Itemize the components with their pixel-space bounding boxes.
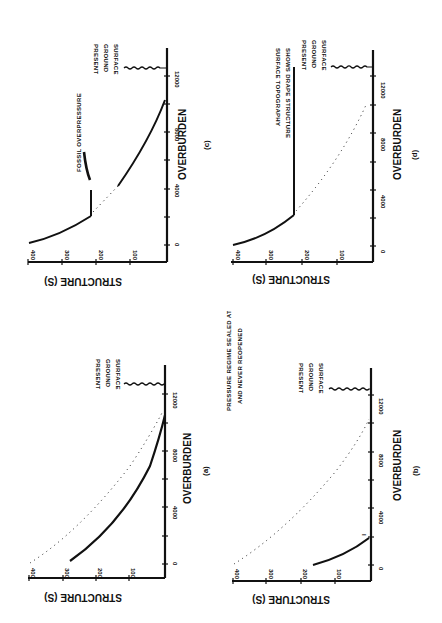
chart-c: 400 300 200 100 0 4000 8000 12000 STRUCT… bbox=[0, 0, 221, 311]
panel-d: 400 300 200 100 0 4000 8000 12000 STRUCT… bbox=[221, 0, 442, 311]
xtick-0: 0 bbox=[378, 567, 384, 571]
xtick-8000: 8000 bbox=[380, 138, 386, 152]
chart-b: 400 300 200 100 0 4000 8000 12000 STRUCT… bbox=[221, 311, 442, 622]
panel-label: (a) bbox=[201, 466, 210, 476]
ytick-100: 100 bbox=[132, 250, 138, 261]
ylabel: STRUCTURE (S) bbox=[44, 592, 122, 603]
ground-surface-line bbox=[124, 67, 167, 69]
ytick-100: 100 bbox=[339, 250, 345, 261]
dotted-reference bbox=[234, 419, 369, 564]
chart-d: 400 300 200 100 0 4000 8000 12000 STRUCT… bbox=[221, 0, 442, 311]
xlabel: OVERBURDEN bbox=[182, 433, 193, 504]
panel-b: 400 300 200 100 0 4000 8000 12000 STRUCT… bbox=[221, 311, 442, 622]
ytick-200: 200 bbox=[97, 568, 103, 579]
gs-present: PRESENT bbox=[95, 359, 101, 389]
xtick-8000: 8000 bbox=[378, 454, 384, 468]
curve-late bbox=[118, 100, 165, 186]
ytick-300: 300 bbox=[268, 250, 274, 261]
xlabel: OVERBURDEN bbox=[392, 109, 403, 180]
xtick-4000: 4000 bbox=[378, 511, 384, 525]
sealed-curve bbox=[313, 538, 369, 565]
drape-label-1: SURFACE TOPOGRAPHY bbox=[275, 48, 281, 126]
ground-surface-line bbox=[329, 388, 371, 390]
xtick-12000: 12000 bbox=[172, 392, 178, 409]
ytick-200: 200 bbox=[304, 250, 310, 261]
dotted-reference bbox=[296, 105, 366, 211]
xlabel: OVERBURDEN bbox=[392, 430, 403, 501]
chart-a: 400 300 200 100 0 4000 8000 12000 STRUCT… bbox=[0, 311, 221, 622]
xtick-12000: 12000 bbox=[174, 71, 180, 88]
ytick-300: 300 bbox=[64, 568, 70, 579]
xtick-12000: 12000 bbox=[378, 398, 384, 415]
panel-label: (d) bbox=[410, 149, 419, 160]
sealed-label-2: AND NEVER REOPENED bbox=[237, 328, 243, 404]
xtick-0: 0 bbox=[172, 562, 178, 566]
seal-marker: I bbox=[361, 534, 367, 536]
ylabel: STRUCTURE (S) bbox=[252, 274, 330, 285]
solid-curve bbox=[70, 415, 165, 561]
gs-present: PRESENT bbox=[93, 44, 99, 74]
xlabel: OVERBURDEN bbox=[177, 109, 188, 180]
panel-label: (b) bbox=[411, 465, 420, 476]
curve-early bbox=[29, 216, 91, 243]
panel-c: 400 300 200 100 0 4000 8000 12000 STRUCT… bbox=[0, 0, 221, 311]
xtick-4000: 4000 bbox=[172, 506, 178, 520]
xtick-0: 0 bbox=[380, 250, 386, 254]
fossil-overpressure-label: FOSSIL OVERPRESSURE bbox=[76, 93, 82, 172]
ytick-400: 400 bbox=[235, 250, 241, 261]
gs-ground: GROUND bbox=[105, 359, 111, 388]
ytick-400: 400 bbox=[30, 250, 36, 261]
gs-surface: SURFACE bbox=[115, 359, 121, 390]
gs-present: PRESENT bbox=[301, 40, 307, 70]
panel-a: 400 300 200 100 0 4000 8000 12000 STRUCT… bbox=[0, 311, 221, 622]
xtick-12000: 12000 bbox=[380, 82, 386, 99]
ylabel: STRUCTURE (S) bbox=[44, 276, 122, 287]
drape-label-2: SHOWS DRAPE STRUCTURE bbox=[285, 48, 291, 138]
xtick-4000: 4000 bbox=[380, 195, 386, 209]
ytick-100: 100 bbox=[130, 568, 136, 579]
xtick-8000: 8000 bbox=[172, 449, 178, 463]
ytick-200: 200 bbox=[98, 250, 104, 261]
ytick-100: 100 bbox=[336, 569, 342, 580]
panel-label: (c) bbox=[202, 140, 211, 150]
sealed-label-1: PRESSURE REGIME SEALED AT I .. bbox=[226, 311, 232, 411]
gs-ground: GROUND bbox=[103, 44, 109, 73]
fossil-hump bbox=[84, 152, 90, 180]
gs-surface: SURFACE bbox=[321, 40, 327, 71]
gs-ground: GROUND bbox=[308, 363, 314, 392]
xtick-4000: 4000 bbox=[174, 184, 180, 198]
curve-early bbox=[233, 215, 294, 245]
ylabel: STRUCTURE (S) bbox=[252, 594, 330, 605]
ytick-300: 300 bbox=[64, 250, 70, 261]
ytick-400: 400 bbox=[30, 568, 36, 579]
gs-ground: GROUND bbox=[311, 40, 317, 69]
gs-present: PRESENT bbox=[298, 363, 304, 393]
ytick-300: 300 bbox=[268, 569, 274, 580]
gs-surface: SURFACE bbox=[113, 44, 119, 75]
ground-surface-line bbox=[331, 66, 373, 68]
ytick-400: 400 bbox=[234, 569, 240, 580]
gs-surface: SURFACE bbox=[318, 363, 324, 394]
ground-surface-line bbox=[124, 383, 165, 385]
ytick-200: 200 bbox=[302, 569, 308, 580]
dotted-link bbox=[93, 186, 118, 212]
xtick-0: 0 bbox=[174, 243, 180, 247]
